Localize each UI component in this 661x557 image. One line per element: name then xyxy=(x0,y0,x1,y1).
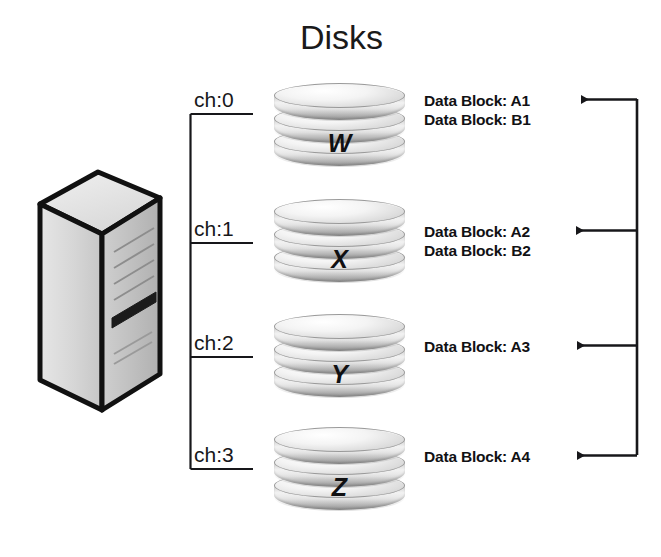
disk-label-y: Y xyxy=(272,362,407,387)
disk-label-z: Z xyxy=(272,475,407,500)
data-block-a3: Data Block: A3 xyxy=(424,338,530,356)
channel-label-ch2: ch:2 xyxy=(194,331,234,355)
disk-stack-x: X xyxy=(272,199,407,300)
disk-platter-top xyxy=(272,427,407,471)
channel-label-ch3: ch:3 xyxy=(194,443,234,467)
data-block-a1: Data Block: A1 xyxy=(424,92,530,110)
disk-platter-top xyxy=(272,83,407,127)
disk-stack-w: W xyxy=(272,83,407,184)
disk-label-x: X xyxy=(272,247,407,272)
disk-platter-top xyxy=(272,314,407,358)
diagram-canvas: Disks xyxy=(0,0,661,557)
disk-stack-y: Y xyxy=(272,314,407,415)
channel-label-ch0: ch:0 xyxy=(194,88,234,112)
data-block-a2: Data Block: A2 xyxy=(424,223,530,241)
data-block-b1: Data Block: B1 xyxy=(424,111,531,129)
channel-label-ch1: ch:1 xyxy=(194,217,234,241)
disk-label-w: W xyxy=(272,131,407,156)
disk-platter-top xyxy=(272,199,407,243)
data-block-a4: Data Block: A4 xyxy=(424,448,530,466)
data-block-b2: Data Block: B2 xyxy=(424,242,531,260)
disk-stack-z: Z xyxy=(272,427,407,528)
